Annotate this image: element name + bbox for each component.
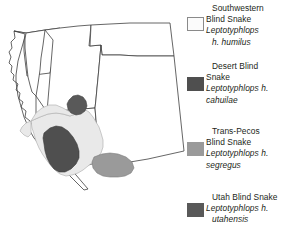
legend-scientific-name-line2: h. humilus [206,37,288,48]
legend-swatch-segregus [187,142,204,156]
legend-text-humilus: Southwestern Blind Snake Leptotyphlops h… [206,3,288,48]
legend-swatch-humilus [187,17,204,31]
legend-text-segregus: Trans-Pecos Blind Snake Leptotyphlops h.… [206,126,288,171]
legend-common-name-line1: Southwestern [206,3,288,14]
legend-common-name-line1: Trans-Pecos [206,126,288,137]
legend-common-name-line1: Desert Blind [206,61,288,72]
state-colorado [90,23,174,56]
legend-text-utahensis: Utah Blind Snake Leptotyphlops h. utahen… [206,192,288,226]
legend-common-name-line2: Blind Snake [206,14,288,25]
map-svg [0,0,186,233]
legend-scientific-name-line1: Leptotyphlops h. [206,83,288,94]
legend-scientific-name-line1: Leptotyphlops [206,25,288,36]
map-legend: Southwestern Blind Snake Leptotyphlops h… [186,0,288,233]
legend-scientific-name-line2: cahuilae [206,95,288,106]
map-panel [0,0,186,233]
legend-swatch-utahensis [187,203,204,217]
legend-scientific-name-line1: Leptotyphlops h. [206,203,288,214]
legend-common-name-line1: Utah Blind Snake [206,192,288,203]
range-map-figure: Southwestern Blind Snake Leptotyphlops h… [0,0,288,233]
legend-scientific-name-line1: Leptotyphlops h. [206,148,288,159]
legend-text-cahuilae: Desert Blind Snake Leptotyphlops h. cahu… [206,61,288,106]
state-new-mexico [95,45,184,167]
legend-scientific-name-line2: segregus [206,160,288,171]
legend-swatch-cahuilae [187,77,204,91]
legend-scientific-name-line2: utahensis [206,214,288,225]
legend-common-name-line2: Blind Snake [206,137,288,148]
legend-common-name-line2: Snake [206,72,288,83]
